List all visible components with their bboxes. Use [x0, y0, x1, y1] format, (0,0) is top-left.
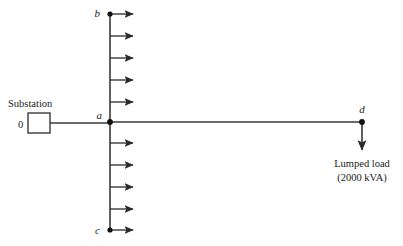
- main-feeder-lines: [110, 14, 362, 230]
- node-label-b: b: [95, 7, 101, 19]
- node-label-a: a: [97, 109, 103, 121]
- node-label-c: c: [95, 224, 100, 236]
- node-dot-a: [107, 119, 113, 125]
- lumped-load-label-line1: Lumped load: [334, 158, 390, 169]
- feeder-diagram: Substation 0 Lumped load (2000 kVA): [0, 0, 403, 246]
- diagram-canvas: Substation 0 Lumped load (2000 kVA): [0, 0, 403, 246]
- node-label-d: d: [359, 103, 365, 115]
- node-dot-b: [107, 11, 112, 16]
- node-dot-c: [107, 227, 112, 232]
- lumped-load-label-line2: (2000 kVA): [337, 172, 387, 184]
- substation-box: [28, 113, 50, 133]
- lumped-load-group: Lumped load (2000 kVA): [334, 122, 390, 184]
- node-dot-d: [359, 119, 365, 125]
- substation-node-label: 0: [18, 119, 23, 130]
- substation-caption: Substation: [8, 98, 53, 109]
- substation-group: Substation 0: [8, 98, 110, 133]
